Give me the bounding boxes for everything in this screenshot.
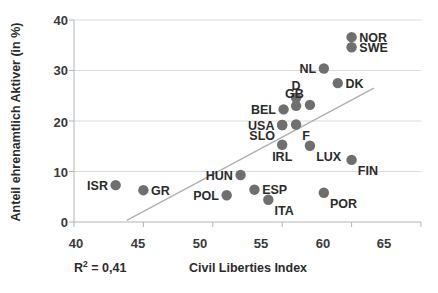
data-point-marker [319,188,329,198]
data-point-marker [305,100,315,110]
x-axis-title: Civil Liberties Index [189,261,307,275]
y-tick-label: 40 [54,13,68,28]
data-point-marker [346,155,356,165]
r-squared-label: R2 = 0,41 [74,259,126,275]
data-point-marker [346,32,356,42]
data-point-label: POR [330,197,357,211]
x-tick-label: 65 [377,236,391,251]
data-point-label: FIN [358,164,378,178]
data-point-marker [291,101,301,111]
data-point-label: BEL [251,103,276,117]
data-point-marker [319,63,329,73]
data-point-label: ISR [87,179,108,193]
data-point-marker [235,170,245,180]
data-point-marker [278,104,288,114]
plot-layer: ISRGRPOLHUNESPITAUSASLOBELIRLDFGBLUXNLPO… [69,20,421,227]
x-tick-label: 45 [131,236,145,251]
y-tick-label: 0 [61,215,68,230]
chart-canvas: Anteil ehrenamtlich Aktiver (in %) 40 30… [0,0,438,293]
data-point-label: ESP [262,183,287,197]
data-point-label: POL [193,189,219,203]
x-tick-label: 55 [254,236,268,251]
data-point-marker [221,190,231,200]
data-point-label: LUX [316,150,342,164]
data-point-label: HUN [206,169,233,183]
data-point-marker [277,120,287,130]
data-point-label: GB [285,87,304,101]
x-tick-label: 40 [69,236,83,251]
data-point-marker [277,140,287,150]
data-point-marker [291,119,301,129]
data-point-marker [263,195,273,205]
data-point-label: SWE [359,41,387,55]
x-tick-label: 60 [316,236,330,251]
data-point-marker [249,184,259,194]
data-point-label: SLO [249,129,275,143]
data-point-marker [333,78,343,88]
data-point-marker [305,141,315,151]
y-tick-label: 30 [54,63,68,78]
data-point-label: ITA [275,204,294,218]
data-point-label: NL [299,62,316,76]
data-point-label: GR [151,184,170,198]
data-point-label: IRL [272,150,293,164]
y-axis-title: Anteil ehrenamtlich Aktiver (in %) [9,23,23,222]
y-tick-label: 10 [54,165,68,180]
x-tick-label: 50 [193,236,207,251]
data-point-marker [110,180,120,190]
data-point-marker [138,185,148,195]
data-point-marker [346,42,356,52]
data-point-label: DK [345,77,363,91]
scatter-chart: Anteil ehrenamtlich Aktiver (in %) 40 30… [0,0,438,293]
y-tick-label: 20 [54,115,68,130]
